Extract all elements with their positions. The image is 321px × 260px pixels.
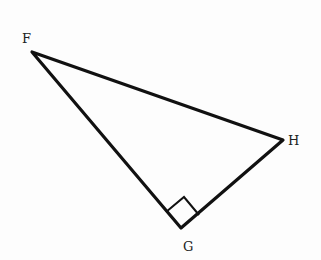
- diagram-canvas: F G H: [0, 0, 321, 260]
- right-angle-marker: [166, 197, 199, 215]
- vertex-label-h: H: [288, 133, 299, 148]
- vertex-label-f: F: [22, 31, 31, 46]
- triangle-fgh: [32, 52, 283, 228]
- vertex-label-g: G: [183, 239, 193, 254]
- triangle-figure: F G H: [0, 0, 321, 260]
